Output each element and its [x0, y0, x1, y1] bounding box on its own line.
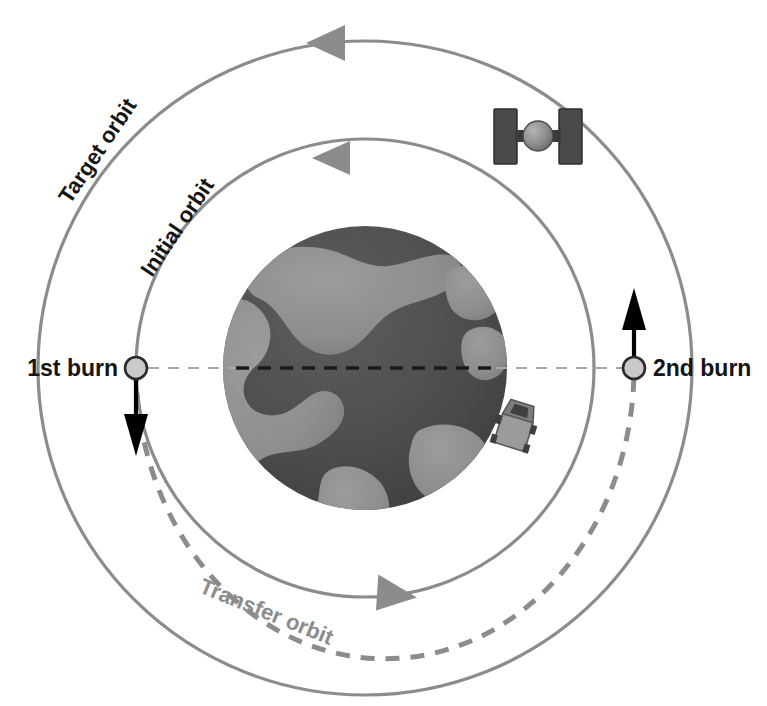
initial-orbit-label: Initial orbit — [135, 173, 219, 281]
target-orbit-direction-arrow-left-icon — [306, 25, 345, 61]
transfer-orbit-label: Transfer orbit — [196, 573, 337, 650]
second-burn-label: 2nd burn — [653, 355, 751, 381]
earth-globe-icon — [202, 226, 509, 558]
diagram-canvas: 1st burn 2nd burn Target orbit Initial o… — [0, 0, 767, 706]
second-burn-arrow-up-icon — [622, 288, 646, 330]
satellite-body — [523, 121, 553, 151]
satellite-panel-left — [494, 109, 517, 164]
second-burn-marker — [623, 357, 645, 379]
satellite-panel-right — [559, 109, 582, 164]
first-burn-marker — [125, 357, 147, 379]
target-orbit-label: Target orbit — [53, 93, 142, 208]
first-burn-label: 1st burn — [27, 355, 118, 381]
satellite-icon — [494, 109, 582, 164]
transfer-orbit-direction-arrow-right-icon — [374, 575, 419, 616]
initial-orbit-direction-arrow-left-icon — [312, 141, 350, 175]
orbital-transfer-diagram: 1st burn 2nd burn Target orbit Initial o… — [0, 0, 767, 706]
